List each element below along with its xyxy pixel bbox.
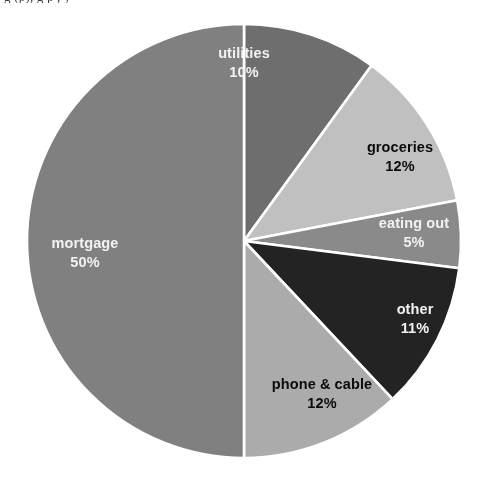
- pie-label-phone-and-cable-percent: 12%: [252, 394, 392, 413]
- pie-label-phone-and-cable: phone & cable 12%: [252, 375, 392, 412]
- pie-label-eating-out-name: eating out: [352, 214, 476, 233]
- pie-label-other-percent: 11%: [367, 319, 463, 338]
- pie-label-mortgage-name: mortgage: [22, 234, 148, 253]
- pie-label-groceries-name: groceries: [335, 138, 465, 157]
- pie-label-utilities: utilities 10%: [184, 44, 304, 81]
- pie-label-groceries: groceries 12%: [335, 138, 465, 175]
- pie-label-utilities-name: utilities: [184, 44, 304, 63]
- pie-chart-figure: g (p), g p , y utilities 10% groceries 1…: [0, 0, 485, 480]
- pie-label-utilities-percent: 10%: [184, 63, 304, 82]
- pie-label-eating-out: eating out 5%: [352, 214, 476, 251]
- pie-label-groceries-percent: 12%: [335, 157, 465, 176]
- pie-label-other: other 11%: [367, 300, 463, 337]
- pie-label-mortgage-percent: 50%: [22, 253, 148, 272]
- pie-label-other-name: other: [367, 300, 463, 319]
- pie-label-mortgage: mortgage 50%: [22, 234, 148, 271]
- pie-label-phone-and-cable-name: phone & cable: [252, 375, 392, 394]
- pie-label-eating-out-percent: 5%: [352, 233, 476, 252]
